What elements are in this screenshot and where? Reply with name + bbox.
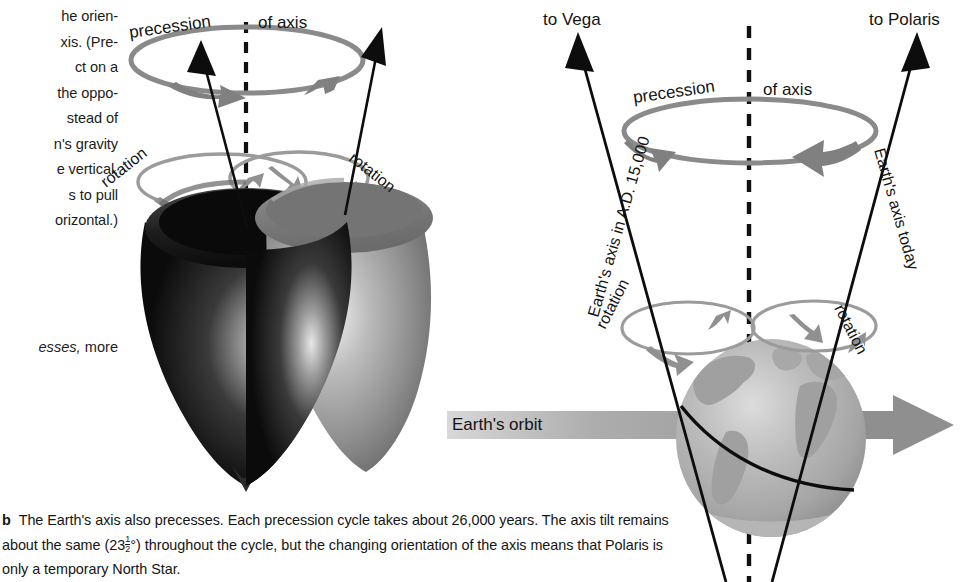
dark-top-axis-arrowhead (187, 40, 216, 76)
to-vega-label: to Vega (543, 10, 601, 29)
figure-stage: he orien- xis. (Pre- ct on a the oppo- s… (0, 0, 975, 582)
figure-caption: b The Earth's axis also precesses. Each … (2, 508, 682, 582)
left-rotation-label: rotation (97, 144, 150, 190)
right-of-axis-label: of axis (763, 80, 812, 99)
caption-marker: b (2, 512, 11, 528)
earth-orbit-label: Earth's orbit (452, 415, 542, 434)
right-diagram-group: to Vega to Polaris precession of axis Ea… (447, 10, 954, 582)
right-right-rotation-arrow (789, 314, 823, 343)
to-polaris-label: to Polaris (869, 10, 940, 29)
axis-today-label: Earth's axis today (871, 146, 922, 272)
left-diagram-group: precession of axis rotation rotation (97, 12, 433, 492)
right-left-rotation-ellipse (622, 302, 754, 354)
dark-top-overlap-mask (246, 222, 352, 486)
right-left-rotation-arrow (646, 346, 694, 376)
figure-graphics: precession of axis rotation rotation (0, 0, 975, 582)
axis-to-polaris-arrowhead (901, 32, 930, 72)
axis-to-vega-arrowhead (565, 32, 594, 72)
right-precession-arrow-right (792, 140, 861, 177)
left-precession-arrow-left (168, 82, 246, 108)
orbit-arrowhead (893, 395, 954, 455)
right-left-rotation-arrow-back (708, 310, 731, 330)
left-of-axis-label: of axis (258, 13, 307, 32)
